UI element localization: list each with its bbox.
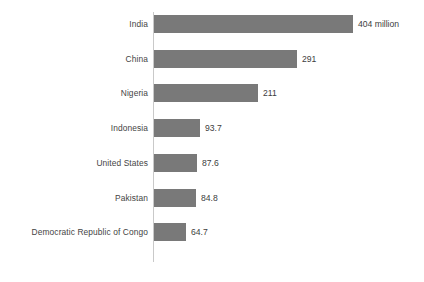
bar bbox=[154, 15, 353, 33]
bar bbox=[154, 223, 186, 241]
bar-value-label: 87.6 bbox=[202, 154, 219, 172]
bar-value-label: 211 bbox=[263, 84, 277, 102]
bar-row: Nigeria211 bbox=[0, 84, 424, 102]
category-label: United States bbox=[96, 154, 148, 172]
bar bbox=[154, 154, 197, 172]
bar bbox=[154, 50, 297, 68]
bar bbox=[154, 189, 196, 207]
bar-value-label: 84.8 bbox=[201, 189, 218, 207]
plot-area: India404 millionChina291Nigeria211Indone… bbox=[0, 0, 424, 282]
bar-value-label: 64.7 bbox=[191, 223, 208, 241]
bar-value-label: 93.7 bbox=[205, 119, 222, 137]
bar-row: Democratic Republic of Congo64.7 bbox=[0, 223, 424, 241]
bar-value-label: 404 million bbox=[358, 15, 399, 33]
category-label: China bbox=[126, 50, 148, 68]
bar-value-label: 291 bbox=[302, 50, 316, 68]
bar bbox=[154, 84, 258, 102]
category-label: Democratic Republic of Congo bbox=[32, 223, 148, 241]
bar bbox=[154, 119, 200, 137]
bar-row: United States87.6 bbox=[0, 154, 424, 172]
bar-row: Indonesia93.7 bbox=[0, 119, 424, 137]
bar-row: China291 bbox=[0, 50, 424, 68]
bar-row: India404 million bbox=[0, 15, 424, 33]
bar-row: Pakistan84.8 bbox=[0, 189, 424, 207]
category-label: India bbox=[129, 15, 148, 33]
category-label: Indonesia bbox=[111, 119, 148, 137]
category-label: Pakistan bbox=[115, 189, 148, 207]
bar-chart: India404 millionChina291Nigeria211Indone… bbox=[0, 0, 424, 282]
category-label: Nigeria bbox=[121, 84, 148, 102]
